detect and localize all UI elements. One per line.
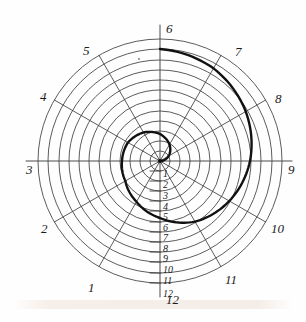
radius-tick-label-t3: 3 [163,191,168,201]
radius-tick-label-t11: 11 [163,276,172,286]
perimeter-label-10: 10 [271,222,284,235]
perimeter-label-3: 3 [26,163,33,176]
grid-spoke-120deg [99,55,160,161]
perimeter-label-8: 8 [275,92,282,105]
perimeter-label-11: 11 [225,273,237,286]
perimeter-label-7: 7 [235,45,242,58]
grid-spoke-150deg [54,100,160,161]
radius-tick-label-t2: 2 [163,180,168,190]
spiral-diagram: 123456789101112 123456789101112 [0,0,306,322]
perimeter-label-1: 1 [88,281,95,294]
radius-tick-label-t1: 1 [163,169,168,179]
perimeter-label-5: 5 [83,44,90,57]
radius-tick-label-t12: 12 [163,289,173,299]
pole-center-dot [158,159,162,163]
radius-tick-label-t7: 7 [163,233,168,243]
stray-ink-dot [138,58,140,60]
perimeter-label-6: 6 [166,22,173,35]
radius-tick-label-t9: 9 [163,254,168,264]
spiral-diagram-canvas [0,0,306,322]
perimeter-label-2: 2 [41,222,48,235]
radius-tick-label-t5: 5 [163,212,168,222]
grid-spoke-210deg [54,161,160,222]
radius-division-ticks [150,171,161,283]
perimeter-label-4: 4 [40,90,47,103]
radius-tick-label-t10: 10 [163,265,173,275]
perimeter-label-9: 9 [288,163,295,176]
